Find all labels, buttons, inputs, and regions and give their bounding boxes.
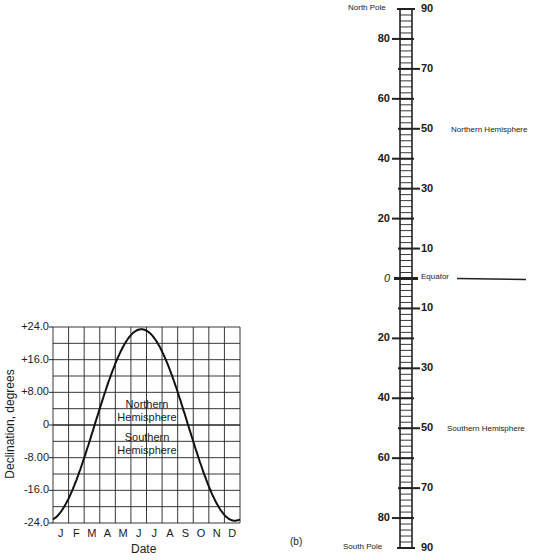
month-label: O <box>193 527 209 539</box>
latitude-tick-label: 60 <box>376 92 390 104</box>
latitude-tick-label: 80 <box>376 511 390 523</box>
southern-label-line1: Southern <box>102 431 192 444</box>
month-label: J <box>146 527 162 539</box>
latitude-tick-label: 0 <box>376 272 390 284</box>
northern-hemisphere-label: Northern Hemisphere <box>102 398 192 424</box>
month-label: M <box>84 527 100 539</box>
northern-hemisphere-scale-label: Northern Hemisphere <box>451 125 527 134</box>
y-tick-label: 0 <box>5 418 49 430</box>
northern-label-line1: Northern <box>102 398 192 411</box>
latitude-tick-label: 70 <box>421 481 433 493</box>
southern-label-line2: Hemisphere <box>102 444 192 457</box>
x-axis-title: Date <box>131 542 156 556</box>
latitude-tick-label: 40 <box>376 391 390 403</box>
y-tick-label: -24.0 <box>5 516 49 528</box>
latitude-tick-label: 80 <box>376 32 390 44</box>
latitude-tick-label: 10 <box>421 242 433 254</box>
panel-label: (b) <box>290 536 302 547</box>
month-label: N <box>209 527 225 539</box>
y-tick-label: -16.0 <box>5 483 49 495</box>
month-label: J <box>53 527 69 539</box>
month-label: A <box>162 527 178 539</box>
y-tick-label: -8.00 <box>5 451 49 463</box>
latitude-tick-label: 60 <box>376 451 390 463</box>
y-tick-label: +24.0 <box>5 320 49 332</box>
month-label: F <box>68 527 84 539</box>
latitude-tick-label: 20 <box>376 331 390 343</box>
south-pole-label: South Pole <box>343 542 382 551</box>
latitude-tick-label: 50 <box>421 421 433 433</box>
latitude-tick-label: 30 <box>421 361 433 373</box>
latitude-tick-label: 30 <box>421 182 433 194</box>
month-label: A <box>100 527 116 539</box>
latitude-tick-label: 40 <box>376 152 390 164</box>
latitude-tick-label: 50 <box>421 122 433 134</box>
latitude-tick-label: 70 <box>421 62 433 74</box>
latitude-tick-label: 90 <box>421 2 433 14</box>
y-tick-label: +16.0 <box>5 353 49 365</box>
northern-label-line2: Hemisphere <box>102 411 192 424</box>
month-label: D <box>224 527 240 539</box>
equator-label: Equator <box>421 272 449 281</box>
north-pole-label: North Pole <box>348 3 386 12</box>
month-label: J <box>131 527 147 539</box>
month-label: M <box>115 527 131 539</box>
southern-hemisphere-scale-label: Southern Hemisphere <box>447 424 525 433</box>
y-tick-label: +8.00 <box>5 385 49 397</box>
southern-hemisphere-label: Southern Hemisphere <box>102 431 192 457</box>
month-label: S <box>177 527 193 539</box>
declination-chart-plot <box>0 0 538 560</box>
latitude-tick-label: 90 <box>421 541 433 553</box>
latitude-tick-label: 10 <box>421 301 433 313</box>
latitude-tick-label: 20 <box>376 212 390 224</box>
